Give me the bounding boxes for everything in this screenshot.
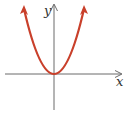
x-axis-label: x [116,74,124,89]
y-axis-label: y [43,3,52,18]
parabola-graph: y x [0,0,128,116]
